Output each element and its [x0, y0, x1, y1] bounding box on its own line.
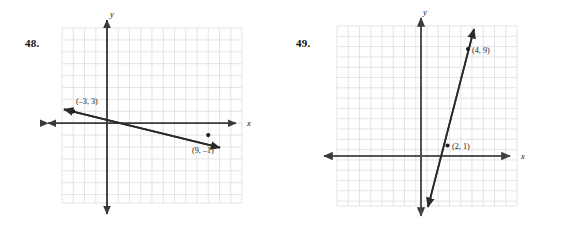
point-label-9-neg1: (9, –1)	[192, 146, 214, 155]
point-label-neg3-3: (–3, 3)	[76, 97, 98, 106]
y-axis-label-49: y	[422, 7, 427, 17]
plotted-line-48-left-arrow	[64, 109, 220, 147]
graph-49: x y (2, 1) (4, 9)	[282, 0, 564, 231]
point-label-4-9: (4, 9)	[472, 46, 490, 55]
worksheet-page: 48.	[0, 0, 564, 231]
problem-48: 48.	[0, 0, 282, 231]
point-label-2-1: (2, 1)	[452, 142, 470, 151]
grid-lines-49	[337, 26, 517, 206]
y-axis-label-48: y	[109, 9, 114, 19]
data-point-marker	[206, 133, 210, 137]
data-point-marker	[71, 109, 75, 113]
graph-48: x y (–3, 3) (9, –1)	[0, 0, 282, 231]
x-axis-label-49: x	[520, 151, 525, 161]
data-point-marker	[445, 143, 449, 147]
data-point-marker	[466, 47, 470, 51]
x-axis-label-48: x	[246, 118, 251, 128]
problem-49: 49.	[282, 0, 564, 231]
